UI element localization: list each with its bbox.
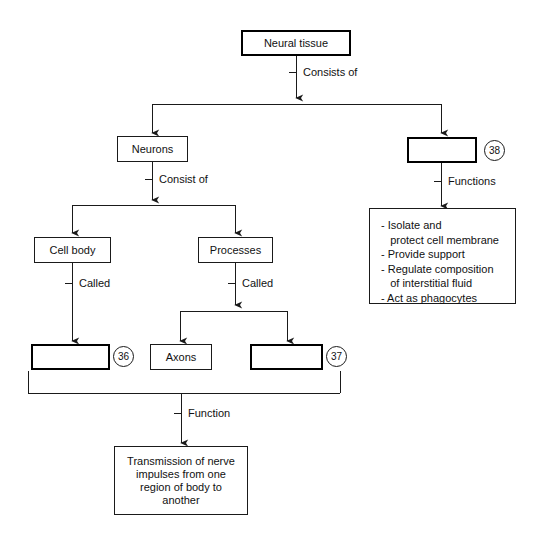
edge-label-consists-of-text: Consists of [303, 66, 357, 78]
answer-number-38-label: 38 [489, 145, 500, 156]
node-axons: Axons [150, 344, 212, 370]
edge-label-consist-of: Consist of [159, 173, 208, 185]
edge-label-called-right-text: Called [242, 277, 273, 289]
edge-label-called-left-text: Called [79, 277, 110, 289]
node-cell-body-label: Cell body [50, 244, 96, 257]
edge-label-function-text: Function [188, 407, 230, 419]
node-answer-blank-36[interactable] [31, 344, 110, 370]
functions-line-4: - Regulate composition [381, 262, 505, 277]
answer-number-37: 37 [326, 346, 347, 367]
edge-label-called-left: Called [79, 277, 110, 289]
functions-line-1: - Isolate and [381, 218, 505, 233]
node-answer-blank-38[interactable] [407, 137, 477, 163]
functions-line-3: - Provide support [381, 247, 505, 262]
node-answer-blank-37[interactable] [250, 344, 323, 370]
node-transmission: Transmission of nerve impulses from one … [114, 446, 248, 515]
node-transmission-label: Transmission of nerve impulses from one … [127, 455, 235, 507]
node-neurons-label: Neurons [132, 143, 174, 156]
node-cell-body: Cell body [34, 237, 111, 263]
answer-number-36-label: 36 [118, 351, 129, 362]
edge-label-functions: Functions [448, 175, 496, 187]
answer-number-38: 38 [484, 140, 505, 161]
node-neural-tissue-label: Neural tissue [264, 37, 328, 50]
node-axons-label: Axons [166, 351, 197, 364]
edge-label-called-right: Called [242, 277, 273, 289]
functions-line-6: - Act as phagocytes [381, 291, 505, 306]
answer-number-36: 36 [113, 346, 134, 367]
functions-line-2: protect cell membrane [381, 233, 505, 248]
node-neurons: Neurons [117, 136, 188, 162]
edge-label-consists-of: Consists of [303, 66, 357, 78]
edge-label-function: Function [188, 407, 230, 419]
node-processes: Processes [198, 237, 273, 263]
node-processes-label: Processes [210, 244, 261, 257]
edge-label-consist-of-text: Consist of [159, 173, 208, 185]
functions-line-5: of interstitial fluid [381, 276, 505, 291]
node-functions-list: - Isolate and protect cell membrane - Pr… [369, 208, 516, 304]
answer-number-37-label: 37 [331, 351, 342, 362]
node-neural-tissue: Neural tissue [241, 30, 351, 56]
edge-label-functions-text: Functions [448, 175, 496, 187]
flowchart-diagram: Neural tissue Neurons 38 - Isolate and p… [0, 0, 537, 538]
